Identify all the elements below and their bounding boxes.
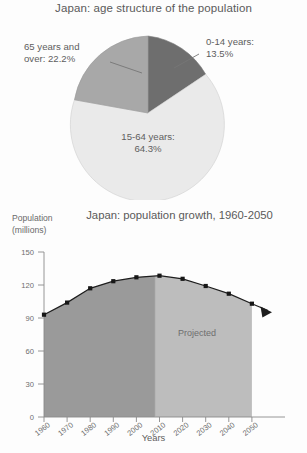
pie-label-65-over-line1: 65 years and (24, 41, 79, 52)
x-axis-title: Years (0, 432, 307, 443)
svg-text:60: 60 (26, 347, 34, 356)
projected-region-label: Projected (178, 328, 216, 338)
pie-label-15-64: 15-64 years: 64.3% (96, 131, 200, 156)
pie-label-65-over-line2: over: 22.2% (24, 53, 75, 64)
pie-label-15-64-line2: 64.3% (134, 143, 161, 154)
area-chart-panel: Japan: population growth, 1960-2050 Popu… (0, 200, 307, 453)
pie-chart-graphic (0, 0, 307, 200)
y-axis-ticks: 0 30 60 90 120 150 (21, 248, 44, 422)
pie-label-0-14-line1: 0-14 years: (206, 36, 254, 47)
svg-text:30: 30 (26, 380, 34, 389)
area-fill-historical (44, 276, 155, 417)
pie-label-0-14-line2: 13.5% (206, 48, 233, 59)
area-chart-graphic: 0 30 60 90 120 150 1960 1970 1980 1990 2… (0, 200, 307, 453)
pie-label-15-64-line1: 15-64 years: (121, 131, 174, 142)
pie-label-0-14: 0-14 years: 13.5% (206, 36, 298, 61)
svg-text:90: 90 (26, 314, 34, 323)
svg-text:150: 150 (21, 248, 34, 257)
pie-chart-panel: Japan: age structure of the population 6… (0, 0, 307, 200)
svg-text:0: 0 (30, 413, 34, 422)
pie-label-65-over: 65 years and over: 22.2% (24, 41, 110, 66)
trend-arrow-head (261, 307, 273, 318)
svg-text:120: 120 (21, 281, 34, 290)
